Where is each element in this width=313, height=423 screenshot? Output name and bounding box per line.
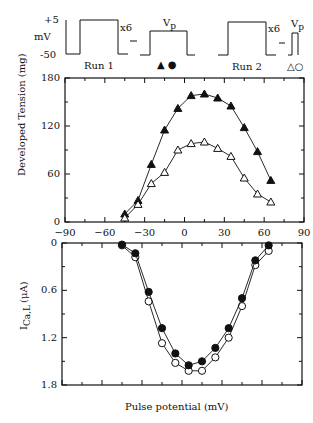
filled-triangle-marker xyxy=(147,160,155,167)
x-tick-label: −90 xyxy=(54,227,75,238)
open-triangle-marker xyxy=(174,146,182,153)
x6-label-2: x6 xyxy=(268,23,280,34)
v-low-label: -50 xyxy=(40,49,56,60)
open-circle-marker xyxy=(158,340,165,347)
current-panel: 00.61.21.8 xyxy=(41,237,302,390)
filled-circle-marker xyxy=(158,325,165,332)
protocol-diagram xyxy=(66,20,298,55)
x-tick-label: −60 xyxy=(94,227,115,238)
filled-circle-marker xyxy=(212,344,219,351)
open-triangle-marker xyxy=(227,152,235,159)
plot-frame xyxy=(62,243,302,385)
y-tick-label: 120 xyxy=(41,120,60,131)
filled-circle-marker xyxy=(145,288,152,295)
x-tick-label: −30 xyxy=(134,227,155,238)
run2-symbols: △○ xyxy=(287,61,303,72)
series-line xyxy=(122,245,269,366)
y-tick-label: 180 xyxy=(41,72,60,83)
filled-triangle-marker xyxy=(200,90,208,97)
y-tick-label: 60 xyxy=(47,168,60,179)
filled-circle-marker xyxy=(238,295,245,302)
open-circle-marker xyxy=(172,359,179,366)
y-tick-label: 0 xyxy=(51,237,57,248)
open-triangle-marker xyxy=(240,174,248,181)
run2-test-pulse-trace xyxy=(288,33,298,55)
series-line xyxy=(122,245,269,370)
open-triangle-marker xyxy=(200,138,208,145)
y-tick-label: 1.2 xyxy=(41,332,57,343)
run1-prepulse-trace xyxy=(66,20,128,54)
run2-label: Run 2 xyxy=(232,61,262,72)
filled-circle-marker xyxy=(172,350,179,357)
figure: +5 mV -50 x6 x6 Vp Vp Run 1 Run 2 ▲ ● △○… xyxy=(0,0,313,423)
filled-triangle-marker xyxy=(267,176,275,183)
mv-label: mV xyxy=(34,31,51,42)
y-tick-label: 0 xyxy=(54,216,60,227)
filled-circle-marker xyxy=(185,362,192,369)
x-axis-label: Pulse potential (mV) xyxy=(125,401,229,412)
x-tick-label: 0 xyxy=(181,227,187,238)
x6-label: x6 xyxy=(120,22,132,33)
open-triangle-marker xyxy=(267,198,275,205)
filled-circle-marker xyxy=(265,242,272,249)
open-triangle-marker xyxy=(214,144,222,151)
filled-triangle-marker xyxy=(161,126,169,133)
filled-circle-marker xyxy=(198,358,205,365)
tension-panel: 180120600 xyxy=(41,72,304,227)
run1-test-pulse-trace xyxy=(140,31,195,55)
x-tick-label: 30 xyxy=(218,227,231,238)
filled-triangle-marker xyxy=(227,102,235,109)
run1-label: Run 1 xyxy=(84,60,114,71)
filled-triangle-marker xyxy=(240,124,248,131)
open-circle-marker xyxy=(225,334,232,341)
v-high-label: +5 xyxy=(44,14,59,25)
y-tick-label: 0.6 xyxy=(41,284,57,295)
open-circle-marker xyxy=(212,354,219,361)
series-line xyxy=(125,94,271,214)
filled-circle-marker xyxy=(252,257,259,264)
filled-circle-marker xyxy=(132,250,139,257)
top-y-axis-label: Developed Tension (mg) xyxy=(16,53,27,176)
filled-circle-marker xyxy=(118,241,125,248)
open-triangle-marker xyxy=(161,168,169,175)
run1-symbols: ▲ ● xyxy=(157,59,177,70)
y-tick-label: 1.8 xyxy=(41,379,57,390)
vp-label-2: Vp xyxy=(290,18,304,32)
open-circle-marker xyxy=(198,367,205,374)
x-tick-label: 60 xyxy=(258,227,271,238)
filled-circle-marker xyxy=(225,325,232,332)
bottom-y-axis-label: ICa,L(μA) xyxy=(18,281,32,330)
filled-triangle-marker xyxy=(254,148,262,155)
vp-label: Vp xyxy=(162,17,176,31)
series-line xyxy=(125,142,271,218)
x-tick-label: 90 xyxy=(298,227,311,238)
